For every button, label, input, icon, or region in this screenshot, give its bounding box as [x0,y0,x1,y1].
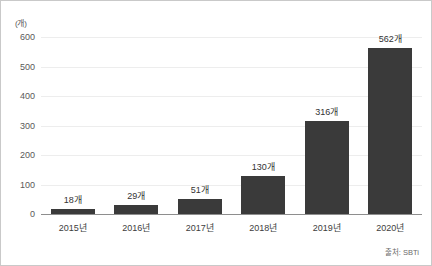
bar-group: 29개2016년 [105,37,169,214]
y-axis-tick-label: 300 [20,121,35,131]
bar-group: 18개2015년 [41,37,105,214]
bar-value-label: 130개 [252,160,275,173]
bar-value-label: 51개 [191,183,209,196]
x-axis-category-label: 2017년 [186,221,214,234]
bar-group: 51개2017년 [168,37,232,214]
bar-series: 18개2015년29개2016년51개2017년130개2018년316개201… [41,37,422,214]
bar-group: 130개2018년 [232,37,296,214]
x-axis-category-label: 2019년 [313,221,341,234]
axis-baseline [41,214,422,215]
y-axis-tick-label: 400 [20,91,35,101]
bar [51,209,95,214]
y-axis-tick-label: 0 [30,209,35,219]
bar [305,121,349,214]
bar [368,48,412,214]
x-axis-category-label: 2020년 [376,221,404,234]
y-axis-unit-label: (개) [15,17,27,28]
source-note: 출처: SBTi [385,246,419,257]
bar-group: 316개2019년 [295,37,359,214]
bar-value-label: 562개 [379,32,402,45]
bar-value-label: 29개 [127,189,145,202]
x-axis-category-label: 2015년 [59,221,87,234]
x-axis-category-label: 2018년 [249,221,277,234]
bar [114,205,158,214]
y-axis-tick-label: 500 [20,62,35,72]
bar [178,199,222,214]
bar-value-label: 316개 [315,105,338,118]
x-axis-category-label: 2016년 [122,221,150,234]
bar-group: 562개2020년 [359,37,423,214]
y-axis-tick-label: 200 [20,150,35,160]
bar-value-label: 18개 [64,193,82,206]
plot-area: 0100200300400500600 18개2015년29개2016년51개2… [41,37,422,214]
chart-figure: (개) 0100200300400500600 18개2015년29개2016년… [0,0,432,266]
bar [241,176,285,214]
y-axis-tick-label: 100 [20,180,35,190]
y-axis-tick-label: 600 [20,32,35,42]
